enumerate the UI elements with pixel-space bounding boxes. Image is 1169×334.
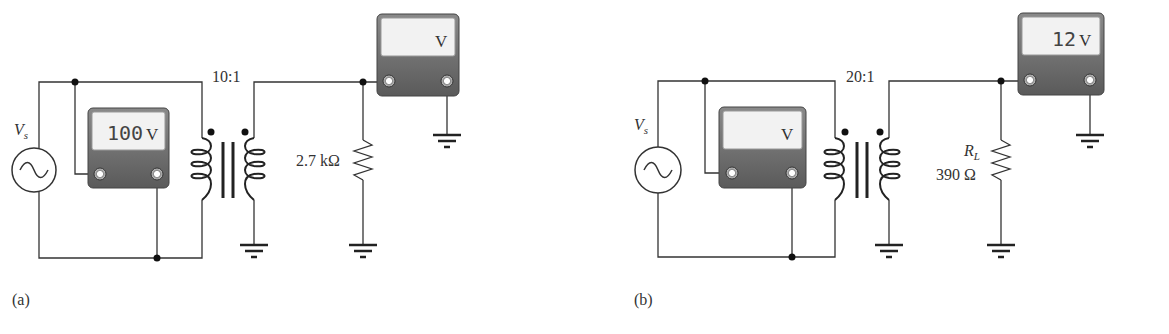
junction-dot	[702, 78, 709, 85]
meter-unit: V	[1079, 31, 1092, 50]
panel-label-a: (a)	[12, 291, 30, 309]
ground-icon	[987, 245, 1015, 257]
junction-dot	[72, 79, 79, 86]
polarity-dot	[208, 129, 215, 136]
polarity-dot	[877, 129, 884, 136]
ground-icon	[240, 245, 268, 257]
voltmeter-primary: 100 V	[88, 108, 169, 188]
meter-jack-negative[interactable]	[1084, 74, 1096, 86]
secondary-top-wire	[889, 81, 1030, 138]
primary-bottom-wire	[39, 192, 202, 258]
ground-icon	[1076, 135, 1104, 147]
resistor-value-label: 390 Ω	[936, 166, 976, 183]
source-label: Vs	[634, 116, 648, 136]
junction-dot	[360, 79, 367, 86]
meter-unit: V	[781, 125, 794, 144]
junction-dot	[998, 78, 1005, 85]
ground-icon	[875, 245, 903, 257]
junction-dot	[154, 255, 161, 262]
voltmeter-primary: V	[719, 107, 806, 188]
junction-dot	[789, 254, 796, 261]
meter-unit: V	[146, 125, 159, 144]
meter-reading: 100	[107, 121, 143, 145]
voltmeter-secondary: 12 V	[1018, 13, 1104, 95]
meter-jack-negative[interactable]	[151, 168, 163, 180]
polarity-dot	[242, 129, 249, 136]
resistor-name-label: RL	[963, 142, 980, 162]
meter-reading: 12	[1052, 27, 1076, 51]
polarity-dot	[842, 129, 849, 136]
meter-jack-positive[interactable]	[1024, 74, 1036, 86]
meter-jack-positive[interactable]	[383, 75, 395, 87]
transformer-icon	[825, 129, 900, 201]
ground-icon	[349, 245, 377, 257]
primary-bottom-wire	[658, 192, 835, 257]
meter-jack-positive[interactable]	[94, 168, 106, 180]
ac-source-icon	[12, 148, 56, 192]
ac-source-icon	[635, 147, 681, 193]
meter-jack-positive[interactable]	[726, 167, 738, 179]
transformer-icon	[192, 129, 265, 201]
meter-unit: V	[435, 32, 448, 51]
turns-ratio-label: 10:1	[212, 68, 240, 85]
resistor-icon	[992, 140, 1010, 180]
meter-jack-negative[interactable]	[441, 75, 453, 87]
voltmeter-secondary: V	[377, 14, 459, 96]
ground-icon	[433, 135, 461, 147]
resistor-icon	[354, 140, 372, 180]
turns-ratio-label: 20:1	[846, 68, 874, 85]
resistor-value-label: 2.7 kΩ	[296, 152, 340, 169]
meter-jack-negative[interactable]	[786, 167, 798, 179]
panel-label-b: (b)	[634, 291, 653, 309]
source-label: Vs	[14, 121, 28, 141]
